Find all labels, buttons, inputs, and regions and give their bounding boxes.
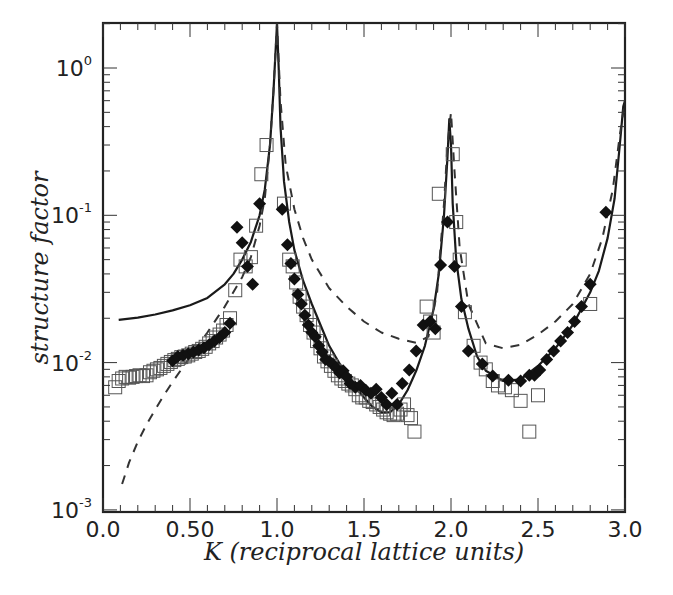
data-point-diamond [253,197,266,210]
data-point-diamond [568,315,581,328]
data-point-diamond [396,377,409,390]
data-point-diamond [230,221,243,234]
dashed-curve [122,24,625,484]
data-point-square [532,389,545,402]
data-point-square [404,412,417,425]
structure-factor-chart: 0.00.501.01.52.02.53.010010-110-210-3 K … [0,0,673,595]
y-axis-title: structure factor [26,170,54,364]
data-point-square [523,425,536,438]
data-point-diamond [455,300,468,313]
data-point-diamond [434,258,447,271]
y-tick-label: 10-2 [51,348,92,376]
data-point-square [408,425,421,438]
data-point-diamond [246,278,259,291]
filled-diamond-series [166,197,612,411]
x-tick-label: 0.0 [86,517,121,542]
y-tick-label: 10-1 [51,200,92,228]
data-point-diamond [236,236,249,249]
x-tick-label: 3.0 [608,517,643,542]
data-point-square [420,300,433,313]
plot-frame [103,23,625,512]
axes: 0.00.501.01.52.02.53.010010-110-210-3 [51,23,642,542]
x-axis-title: K (reciprocal lattice units) [203,538,524,566]
data-point-square [432,187,445,200]
y-tick-label: 100 [56,53,92,81]
x-tick-label: 2.5 [521,517,556,542]
open-square-series [109,139,597,439]
axis-labels: K (reciprocal lattice units) structure f… [26,170,524,566]
data-point-diamond [502,374,515,387]
data-point-diamond [448,260,461,273]
plot-area [109,24,625,484]
